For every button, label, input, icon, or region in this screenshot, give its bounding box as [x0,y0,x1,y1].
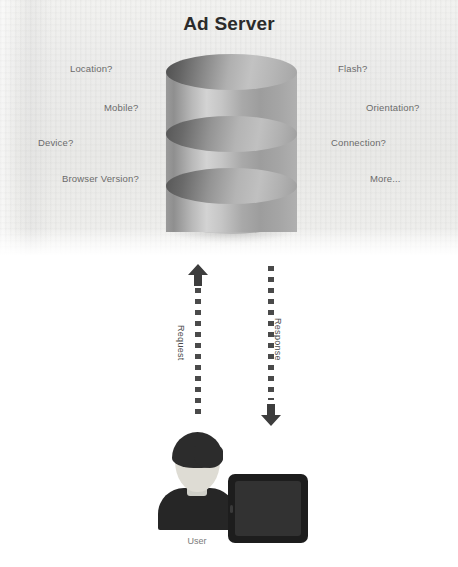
person-avatar-icon [158,432,236,530]
attribute-label-device: Device? [38,137,73,148]
request-flow-label: Request [176,325,186,361]
tablet-icon [228,474,308,543]
attribute-label-more: More... [370,173,401,184]
arrow-down-icon [260,404,282,426]
database-disk-middle [166,116,297,152]
attribute-label-browser-version: Browser Version? [62,173,139,184]
attribute-label-connection: Connection? [331,137,386,148]
attribute-label-mobile: Mobile? [104,102,138,113]
attribute-label-flash: Flash? [338,63,367,74]
tablet-screen [235,481,301,536]
database-disk-top [166,54,297,90]
database-disk-lower [166,168,297,204]
request-dashed-line [195,288,201,420]
avatar-hair-fringe [194,446,223,468]
attribute-label-orientation: Orientation? [366,102,420,113]
diagram-canvas: Ad Server Location? Mobile? Device? Brow… [0,0,458,567]
user-caption: User [158,536,236,546]
ad-server-database-icon [166,54,297,250]
tablet-home-button [230,505,233,513]
arrow-up-icon [187,264,209,286]
page-title: Ad Server [0,13,458,35]
database-body [166,72,297,232]
attribute-label-location: Location? [70,63,113,74]
response-flow-label: Response [273,318,283,361]
